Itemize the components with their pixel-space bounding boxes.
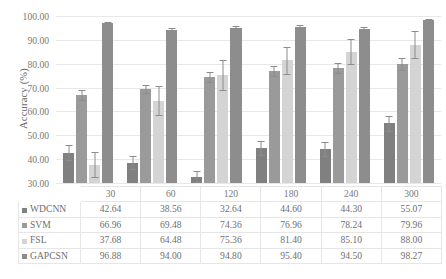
error-bar xyxy=(196,171,197,181)
table-cell-value: 55.07 xyxy=(381,202,441,217)
bar-wdcnn xyxy=(127,16,138,183)
error-bar xyxy=(132,156,133,168)
error-bar xyxy=(274,66,275,76)
error-bar-cap xyxy=(386,131,393,132)
error-bar-cap xyxy=(399,70,406,71)
error-bar-cap xyxy=(361,27,368,28)
table-cell-value: 66.96 xyxy=(81,217,141,232)
table-cell-value: 94.00 xyxy=(141,248,201,263)
error-bar-cap xyxy=(78,90,85,91)
error-bar-cap xyxy=(104,22,111,23)
plot-area: 30.0040.0050.0060.0070.0080.0090.00100.0… xyxy=(56,16,441,183)
table-cell-value: 42.64 xyxy=(81,202,141,217)
error-bar-cap xyxy=(297,29,304,30)
table-cell-value: 64.48 xyxy=(141,233,201,248)
table-cell-value: 78.24 xyxy=(321,217,381,232)
y-axis-tick-label: 40.00 xyxy=(0,154,49,165)
bar-fsl xyxy=(217,16,228,183)
error-bar xyxy=(68,145,69,160)
bar-gapcsn xyxy=(166,16,177,183)
bar-wdcnn xyxy=(256,16,267,183)
table-cell-value: 98.27 xyxy=(381,248,441,263)
table-cell-value: 75.36 xyxy=(201,233,261,248)
bar-group xyxy=(377,16,441,183)
bar-gapcsn xyxy=(230,16,241,183)
bar-group xyxy=(184,16,248,183)
x-axis-tick-label: 30 xyxy=(81,187,141,202)
bar-group xyxy=(313,16,377,183)
table-cell-value: 38.56 xyxy=(141,202,201,217)
table-row: FSL37.6864.4875.3681.4085.1088.00 xyxy=(19,233,442,248)
bar-rect xyxy=(423,20,434,183)
bar-rect xyxy=(410,45,421,183)
error-bar-cap xyxy=(322,156,329,157)
y-axis-tick-label: 100.00 xyxy=(0,11,49,22)
error-bar-cap xyxy=(412,58,419,59)
bar-rect xyxy=(295,27,306,183)
error-bar-cap xyxy=(168,28,175,29)
error-bar-cap xyxy=(91,177,98,178)
error-bar-cap xyxy=(129,156,136,157)
bar-group xyxy=(249,16,313,183)
bar-rect xyxy=(384,123,395,183)
table-cell-value: 81.40 xyxy=(261,233,321,248)
table-row: SVM66.9669.4874.3676.9678.2479.96 xyxy=(19,217,442,232)
error-bar-cap xyxy=(271,76,278,77)
error-bar-cap xyxy=(193,182,200,183)
error-bar-cap xyxy=(104,25,111,26)
error-bar-cap xyxy=(271,66,278,67)
error-bar xyxy=(389,116,390,131)
error-bar-cap xyxy=(233,26,240,27)
error-bar-cap xyxy=(412,31,419,32)
table-cell-value: 85.10 xyxy=(321,233,381,248)
bar-svm xyxy=(140,16,151,183)
error-bar-cap xyxy=(155,86,162,87)
legend-swatch-icon xyxy=(22,208,27,213)
error-bar-cap xyxy=(78,100,85,101)
error-bar-cap xyxy=(65,160,72,161)
error-bar xyxy=(222,60,223,91)
error-bar xyxy=(287,47,288,74)
bar-groups xyxy=(56,16,441,183)
error-bar-cap xyxy=(361,31,368,32)
bar-fsl xyxy=(282,16,293,183)
table-row-header: SVM xyxy=(19,217,81,232)
error-bar-cap xyxy=(386,116,393,117)
data-table: 3060120180240300WDCNN42.6438.5632.6444.6… xyxy=(18,186,442,264)
table-row-header: GAPCSN xyxy=(19,248,81,263)
table-cell-value: 76.96 xyxy=(261,217,321,232)
y-axis-title: Accuracy (%) xyxy=(18,29,29,169)
bar-fsl xyxy=(89,16,100,183)
error-bar-cap xyxy=(129,169,136,170)
x-axis-tick-label: 120 xyxy=(201,187,261,202)
table-cell-value: 94.50 xyxy=(321,248,381,263)
error-bar-cap xyxy=(258,141,265,142)
bar-gapcsn xyxy=(102,16,113,183)
bar-wdcnn xyxy=(191,16,202,183)
error-bar-cap xyxy=(348,39,355,40)
legend-label: FSL xyxy=(30,234,47,245)
bar-svm xyxy=(269,16,280,183)
bar-gapcsn xyxy=(423,16,434,183)
table-cell-value: 96.88 xyxy=(81,248,141,263)
bar-svm xyxy=(76,16,87,183)
bar-rect xyxy=(282,60,293,183)
table-cell-value: 44.60 xyxy=(261,202,321,217)
chart-figure: Accuracy (%) 30.0040.0050.0060.0070.0080… xyxy=(0,0,446,279)
bar-wdcnn xyxy=(320,16,331,183)
error-bar xyxy=(351,39,352,65)
error-bar-cap xyxy=(425,19,432,20)
error-bar-cap xyxy=(233,30,240,31)
bar-rect xyxy=(346,52,357,183)
gridline xyxy=(56,183,441,184)
y-axis-tick-label: 70.00 xyxy=(0,82,49,93)
table-cell-value: 32.64 xyxy=(201,202,261,217)
bar-wdcnn xyxy=(63,16,74,183)
bar-svm xyxy=(333,16,344,183)
error-bar-cap xyxy=(322,142,329,143)
error-bar-cap xyxy=(168,32,175,33)
error-bar-cap xyxy=(155,115,162,116)
legend-swatch-icon xyxy=(22,239,27,244)
table-corner-cell xyxy=(19,187,81,202)
error-bar-cap xyxy=(399,58,406,59)
